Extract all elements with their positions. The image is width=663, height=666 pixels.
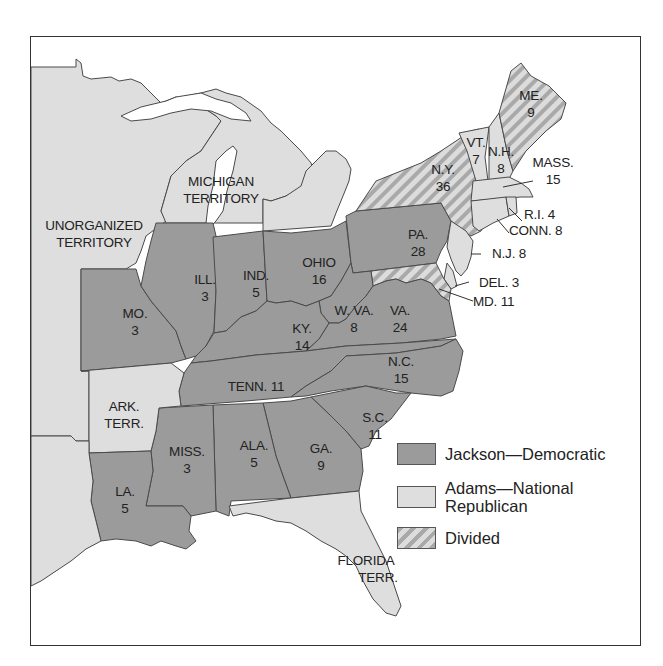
label-connecticut: CONN. 8 (509, 222, 562, 239)
label-ill-votes: 3 (201, 289, 208, 304)
label-pa-abbr: PA. (408, 227, 428, 242)
label-nc-votes: 15 (394, 371, 409, 386)
legend-label-adams-line2: Republican (445, 497, 528, 515)
label-ark-line1: ARK. (109, 399, 140, 414)
label-florida-line2: TERR. (334, 570, 398, 585)
label-wva-votes: 8 (350, 320, 357, 335)
label-mass-abbr: MASS. (532, 155, 573, 170)
label-ky-votes: 14 (295, 338, 310, 353)
label-mo-votes: 3 (131, 323, 138, 338)
legend-swatch-adams (397, 486, 436, 508)
label-kentucky: KY.14 (282, 320, 322, 354)
label-ohio-abbr: OHIO (302, 255, 336, 270)
label-sc-abbr: S.C. (362, 410, 387, 425)
label-florida-line1: FLORIDA (337, 553, 394, 568)
label-unorganized-line2: TERRITORY (56, 235, 132, 250)
label-alabama: ALA.5 (234, 437, 274, 471)
legend-label-adams: Adams—NationalRepublican (445, 479, 573, 515)
label-pennsylvania: PA.28 (398, 226, 438, 260)
label-indiana: IND.5 (236, 267, 276, 301)
label-vermont-abbr: VT. (467, 135, 486, 150)
label-ind-votes: 5 (252, 285, 259, 300)
label-mass-votes: 15 (546, 172, 561, 187)
map-frame: ME.9 VT.7 N.H.8 MASS.15 R.I. 4 CONN. 8 N… (30, 36, 641, 646)
label-miss-votes: 3 (183, 461, 190, 476)
label-michigan-line1: MICHIGAN (188, 174, 254, 189)
label-ill-abbr: ILL. (194, 272, 216, 287)
label-maine-votes: 9 (527, 105, 534, 120)
label-massachusetts: MASS.15 (528, 154, 578, 188)
label-delaware: DEL. 3 (479, 274, 519, 291)
label-georgia: GA.9 (301, 440, 341, 474)
label-va-abbr: VA. (390, 303, 410, 318)
label-michigan-territory: MICHIGANTERRITORY (176, 173, 266, 207)
label-ny-votes: 36 (436, 179, 451, 194)
label-ny-abbr: N.Y. (431, 162, 455, 177)
label-ohio: OHIO16 (294, 254, 344, 288)
label-va-votes: 24 (393, 320, 408, 335)
label-maine-abbr: ME. (519, 88, 542, 103)
label-maryland: MD. 11 (473, 293, 514, 310)
label-nh-abbr: N.H. (488, 144, 514, 159)
label-la-votes: 5 (121, 501, 128, 516)
label-louisiana: LA.5 (105, 483, 145, 517)
label-maine: ME.9 (511, 87, 551, 121)
label-florida-territory: FLORIDATERR. (331, 552, 401, 586)
legend-swatch-jackson (397, 443, 436, 465)
label-unorganized-line1: UNORGANIZED (45, 218, 143, 233)
label-ind-abbr: IND. (243, 268, 269, 283)
label-ala-votes: 5 (250, 455, 257, 470)
label-new-jersey: N.J. 8 (492, 245, 526, 262)
label-unorganized-territory: UNORGANIZEDTERRITORY (39, 217, 149, 251)
label-ky-abbr: KY. (292, 321, 311, 336)
label-west-virginia: W. VA.8 (327, 302, 381, 336)
label-virginia: VA.24 (380, 302, 420, 336)
label-new-york: N.Y.36 (423, 161, 463, 195)
label-ohio-votes: 16 (312, 272, 327, 287)
label-vermont-votes: 7 (472, 152, 479, 167)
label-illinois: ILL.3 (185, 271, 225, 305)
label-north-carolina: N.C.15 (381, 353, 421, 387)
label-wva-abbr: W. VA. (334, 303, 373, 318)
label-la-abbr: LA. (115, 484, 135, 499)
label-new-hampshire: N.H.8 (484, 143, 518, 177)
label-sc-votes: 11 (368, 427, 382, 442)
label-nh-votes: 8 (497, 161, 504, 176)
legend-label-divided: Divided (445, 529, 500, 547)
label-ark-line2: TERR. (104, 416, 144, 431)
legend-label-jackson: Jackson—Democratic (445, 445, 605, 463)
label-south-carolina: S.C.11 (355, 409, 395, 443)
label-michigan-line2: TERRITORY (183, 191, 259, 206)
label-ga-abbr: GA. (310, 441, 333, 456)
label-mo-abbr: MO. (123, 306, 148, 321)
label-miss-abbr: MISS. (169, 444, 205, 459)
label-rhode-island: R.I. 4 (524, 206, 555, 223)
legend-swatch-divided (397, 527, 436, 549)
label-tennessee: TENN. 11 (201, 378, 311, 395)
label-arkansas-territory: ARK.TERR. (99, 398, 149, 432)
legend-label-adams-line1: Adams—National (445, 479, 573, 497)
label-ala-abbr: ALA. (240, 438, 268, 453)
label-missouri: MO.3 (115, 305, 155, 339)
label-pa-votes: 28 (411, 244, 426, 259)
label-mississippi: MISS.3 (162, 443, 212, 477)
label-nc-abbr: N.C. (388, 354, 414, 369)
label-ga-votes: 9 (317, 458, 324, 473)
